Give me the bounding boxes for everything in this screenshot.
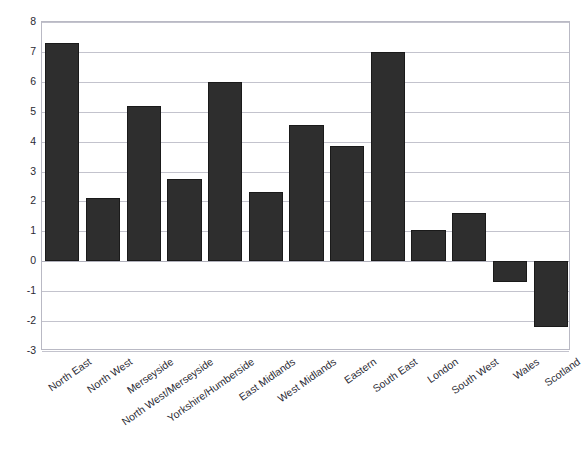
gridline--2 [42, 321, 569, 322]
bar [45, 43, 79, 261]
y-tick-label: 2 [8, 195, 36, 206]
gridline-8 [42, 22, 569, 23]
bar [289, 125, 323, 261]
bar [167, 179, 201, 261]
bar [330, 146, 364, 261]
y-tick-label: 7 [8, 46, 36, 57]
y-tick-label: 5 [8, 105, 36, 116]
y-tick-label: 1 [8, 225, 36, 236]
gridline--1 [42, 291, 569, 292]
bar-chart: 876543210-1-2-3 North EastNorth WestMers… [0, 0, 587, 467]
y-tick-label: -2 [8, 315, 36, 326]
bar [452, 213, 486, 261]
x-tick-label: Merseyside [125, 356, 175, 395]
bar [86, 198, 120, 261]
gridline-7 [42, 52, 569, 53]
bar [534, 261, 568, 327]
y-tick-label: 0 [8, 255, 36, 266]
plot-area [41, 21, 570, 350]
y-tick-label: 8 [8, 16, 36, 27]
x-tick-label: Scotland [542, 356, 582, 388]
gridline--3 [42, 351, 569, 352]
x-tick-label: Eastern [343, 356, 379, 385]
x-tick-label: North West/Merseyside [120, 356, 215, 427]
bar [493, 261, 527, 282]
bar [411, 230, 445, 261]
y-tick-label: 3 [8, 165, 36, 176]
y-tick-label: 4 [8, 135, 36, 146]
y-tick-label: -1 [8, 285, 36, 296]
x-tick-label: East Midlands [237, 356, 297, 402]
x-tick-label: North West [85, 356, 134, 395]
x-tick-label: South East [371, 356, 419, 394]
x-tick-label: West Midlands [275, 356, 337, 404]
gridline-5 [42, 112, 569, 113]
x-tick-label: South West [450, 356, 500, 396]
x-tick-label: London [425, 356, 460, 385]
bar [371, 52, 405, 261]
chart-title-clipped [0, 0, 587, 10]
x-tick-label: Yorkshire/Humberside [166, 356, 256, 424]
gridline-0 [42, 261, 569, 262]
gridline-6 [42, 82, 569, 83]
x-tick-label: North East [47, 356, 94, 393]
bar [127, 106, 161, 262]
bar [249, 192, 283, 261]
bar [208, 82, 242, 261]
x-tick-label: Wales [511, 356, 541, 381]
y-tick-label: 6 [8, 76, 36, 87]
y-tick-label: -3 [8, 345, 36, 356]
